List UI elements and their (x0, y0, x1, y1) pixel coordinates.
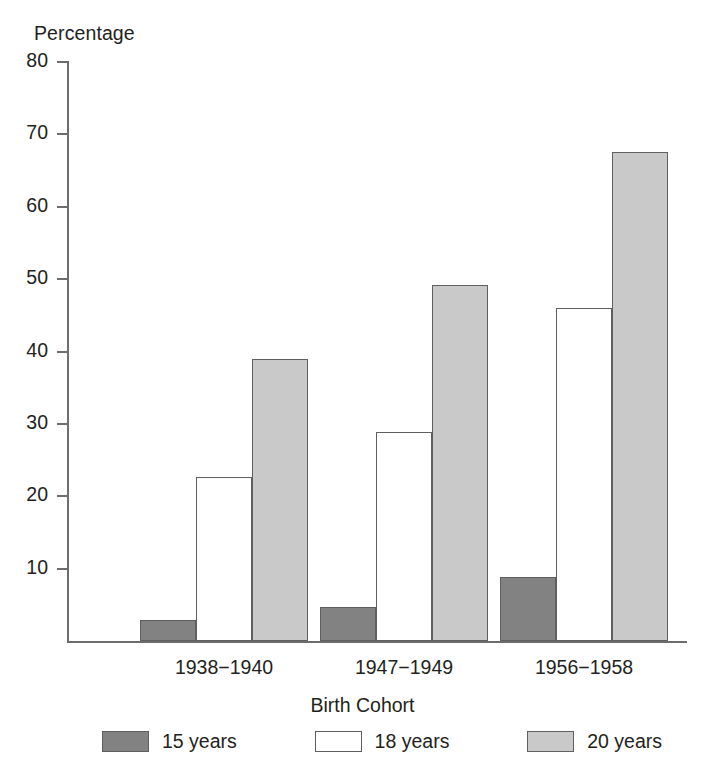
y-tick-80: 80 (57, 61, 69, 63)
legend-label: 15 years (162, 730, 237, 753)
legend-swatch (527, 731, 574, 752)
y-tick-60: 60 (57, 206, 69, 208)
legend-item: 15 years (102, 730, 237, 753)
bar (612, 152, 668, 641)
x-axis-title: Birth Cohort (0, 694, 725, 717)
y-tick-20: 20 (57, 495, 69, 497)
bar (500, 577, 556, 641)
x-category-label: 1938−1940 (175, 656, 273, 679)
y-tick-10: 10 (57, 568, 69, 570)
legend-swatch (102, 731, 149, 752)
x-category-label: 1947−1949 (355, 656, 453, 679)
plot-area: 1020304050607080 (67, 62, 687, 641)
bar (432, 285, 488, 641)
bar (252, 359, 308, 641)
bar (196, 477, 252, 641)
y-tick-50: 50 (57, 278, 69, 280)
y-tick-label: 40 (26, 339, 48, 362)
legend-label: 20 years (587, 730, 662, 753)
y-tick-label: 20 (26, 483, 48, 506)
y-tick-40: 40 (57, 351, 69, 353)
y-tick-label: 60 (26, 194, 48, 217)
y-tick-30: 30 (57, 423, 69, 425)
x-axis-line (67, 641, 687, 643)
x-category-label: 1956−1958 (535, 656, 633, 679)
legend-item: 20 years (527, 730, 662, 753)
bar (140, 620, 196, 641)
chart-legend: 15 years18 years20 years (102, 730, 662, 753)
bar (556, 308, 612, 641)
legend-item: 18 years (315, 730, 450, 753)
bar-chart-figure: Percentage 1020304050607080 1938−1940194… (0, 0, 725, 781)
bar (320, 607, 376, 641)
y-tick-label: 30 (26, 411, 48, 434)
y-tick-label: 10 (26, 556, 48, 579)
bar (376, 432, 432, 641)
y-axis-title: Percentage (34, 22, 135, 45)
legend-swatch (315, 731, 362, 752)
y-tick-label: 70 (26, 121, 48, 144)
y-tick-70: 70 (57, 133, 69, 135)
legend-label: 18 years (375, 730, 450, 753)
y-tick-label: 80 (26, 49, 48, 72)
y-tick-label: 50 (26, 266, 48, 289)
